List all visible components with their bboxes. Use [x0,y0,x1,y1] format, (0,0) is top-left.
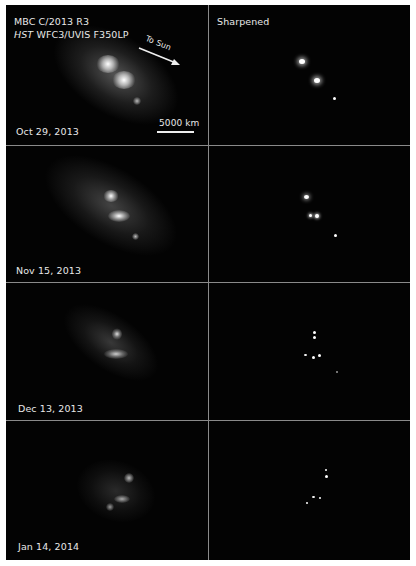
column-divider [208,5,209,560]
fragment-b [104,349,128,359]
date-label: Dec 13, 2013 [18,403,83,415]
fragment-b [114,495,130,503]
fragment-b1 [304,354,307,356]
fragment-b [108,210,130,222]
fragment-a1 [325,469,327,471]
target-name: MBC C/2013 R3 [14,16,89,28]
panel-original-nov15: Nov 15, 2013 [6,146,208,282]
sharpened-label: Sharpened [217,16,269,28]
telescope-name: HST [14,29,33,40]
fragment-c [306,502,308,504]
fragment-b [314,78,320,83]
fragment-a2 [313,336,316,339]
panel-sharpened-dec13 [209,283,410,420]
fragment-b1 [312,496,315,498]
fragment-a [96,55,120,73]
panel-original-oct29: MBC C/2013 R3 HST WFC3/UVIS F350LP To Su… [6,5,208,145]
instrument-label: HST WFC3/UVIS F350LP [14,29,129,41]
fragment-a [304,195,309,199]
fragment-b [112,71,136,89]
date-label: Jan 14, 2014 [18,541,79,553]
instrument-filter: WFC3/UVIS F350LP [33,29,128,40]
figure-frame: MBC C/2013 R3 HST WFC3/UVIS F350LP To Su… [6,5,410,560]
fragment-a [112,328,122,340]
scale-label: 5000 km [159,117,199,129]
panel-sharpened-nov15 [209,146,410,282]
fragment-a1 [313,331,316,334]
fragment-c [132,233,139,240]
coma-glow [50,288,172,396]
fragment-b3 [318,354,321,357]
fragment-a2 [325,475,328,478]
fragment-c [336,371,338,373]
fragment-a [299,59,305,64]
date-label: Oct 29, 2013 [16,126,79,138]
panel-sharpened-jan14 [209,421,410,560]
fragment-b1 [309,214,312,217]
panel-original-dec13: Dec 13, 2013 [6,283,208,420]
fragment-a [124,473,134,483]
panel-sharpened-oct29: Sharpened [209,5,410,145]
coma-glow [68,449,164,533]
panel-original-jan14: Jan 14, 2014 [6,421,208,560]
fragment-b2 [315,214,319,218]
fragment-b2 [319,497,321,499]
fragment-a [103,190,119,202]
fragment-b2 [312,356,315,359]
scale-bar [157,131,194,133]
date-label: Nov 15, 2013 [16,265,81,277]
fragment-c [333,97,336,100]
fragment-c [133,97,141,105]
fragment-c [106,503,114,511]
fragment-c [334,234,337,237]
